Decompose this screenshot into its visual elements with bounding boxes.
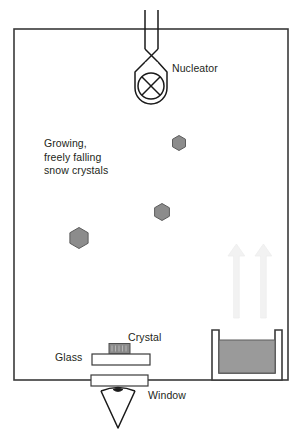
- nucleator-crossed-circle-icon: [138, 73, 164, 99]
- snow-crystal-chamber-diagram: Nucleator Growing, freely falling snow c…: [0, 0, 302, 438]
- water-reservoir: [212, 330, 282, 380]
- label-crystal: Crystal: [128, 331, 161, 345]
- label-falling-snow-crystals: Growing, freely falling snow crystals: [44, 137, 108, 178]
- label-nucleator: Nucleator: [172, 62, 218, 76]
- nucleator-inlet-tube: [145, 10, 158, 62]
- observation-window: [91, 375, 148, 386]
- reservoir-water: [219, 340, 275, 373]
- snow-crystal-large: [70, 228, 88, 249]
- vapor-arrow-left-icon: [228, 244, 245, 318]
- glass-substrate: [92, 354, 150, 365]
- label-window: Window: [148, 389, 186, 403]
- deposited-crystal: [109, 344, 130, 354]
- vapor-arrow-right-icon: [255, 244, 272, 318]
- camera-detector-icon: [101, 388, 135, 429]
- snow-crystal-small: [173, 136, 186, 151]
- snow-crystal-medium: [155, 204, 170, 221]
- label-glass: Glass: [55, 351, 82, 365]
- diagram-canvas: [0, 0, 302, 438]
